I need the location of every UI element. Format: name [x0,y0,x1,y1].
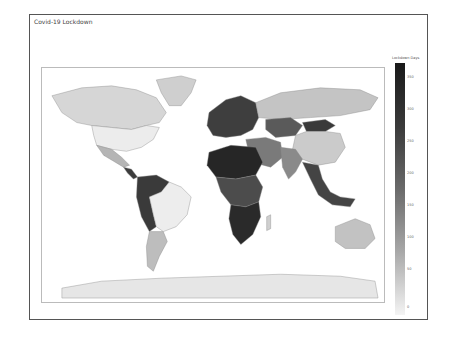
colorbar-tick: 0 [407,305,409,309]
colorbar-tick: 350 [407,75,414,79]
region-north-africa[interactable] [207,145,263,179]
colorbar-tick: 150 [407,203,414,207]
world-map[interactable] [41,67,385,303]
region-argentina[interactable] [146,232,167,272]
colorbar-tick: 100 [407,235,414,239]
region-greenland[interactable] [156,76,196,106]
chart-title: Covid-19 Lockdown [34,18,92,25]
chart-frame: Covid-19 Lockdown [29,14,428,320]
colorbar-tick: 300 [407,107,414,111]
region-antarctica[interactable] [62,274,378,298]
region-mongolia[interactable] [302,120,335,132]
region-russia[interactable] [256,88,378,120]
colorbar-title: Lockdown Days [392,56,419,60]
colorbar-tick: 250 [407,139,414,143]
colorbar-tick: 200 [407,171,414,175]
map-svg [42,68,384,302]
region-central-america[interactable] [124,167,138,179]
region-central-africa[interactable] [216,175,263,207]
region-southern-africa[interactable] [229,202,261,245]
region-kazakhstan[interactable] [266,118,303,138]
colorbar-tick: 50 [407,267,411,271]
region-madagascar[interactable] [267,215,271,231]
region-canada[interactable] [52,86,166,130]
colorbar [395,63,405,315]
region-australia[interactable] [335,219,375,249]
region-europe[interactable] [207,96,259,138]
region-southeast-asia[interactable] [302,162,355,207]
